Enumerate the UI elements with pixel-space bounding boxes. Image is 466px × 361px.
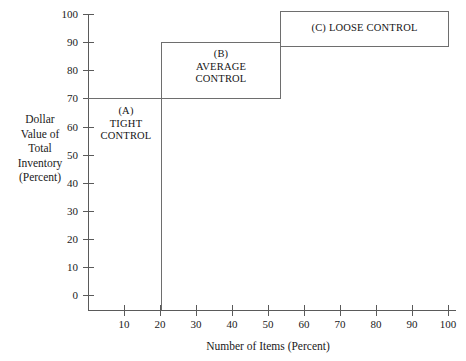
y-tick-label-20: 20	[52, 234, 78, 245]
x-tick-label-90: 90	[397, 319, 427, 330]
x-tick-label-80: 80	[361, 319, 391, 330]
y-tick-label-10: 10	[52, 262, 78, 273]
y-axis-line	[88, 14, 89, 310]
chart-container: 100 90 80 70 60 50 40 30 20 10 0 10 20 3…	[0, 0, 466, 361]
y-axis-title-line4: Inventory	[2, 156, 78, 171]
x-tick-90	[412, 305, 413, 316]
y-tick-40	[83, 183, 94, 184]
x-axis-line	[88, 310, 456, 311]
region-a-label-line3: CONTROL	[92, 130, 160, 143]
y-tick-50	[83, 155, 94, 156]
y-axis-title-line5: (Percent)	[2, 170, 78, 185]
x-tick-10	[124, 305, 125, 316]
x-tick-label-100: 100	[433, 319, 463, 330]
y-tick-label-70: 70	[52, 93, 78, 104]
y-tick-10	[83, 267, 94, 268]
x-tick-50	[268, 305, 269, 316]
y-tick-label-100: 100	[52, 9, 78, 20]
y-tick-label-0: 0	[52, 290, 78, 301]
region-a-label-line2: TIGHT	[92, 118, 160, 131]
y-tick-30	[83, 211, 94, 212]
y-axis-title: Dollar Value of Total Inventory (Percent…	[2, 112, 78, 185]
region-c-label: (C) LOOSE CONTROL	[284, 22, 445, 35]
x-tick-label-60: 60	[289, 319, 319, 330]
x-tick-100	[448, 305, 449, 316]
y-tick-90	[83, 42, 94, 43]
y-tick-label-30: 30	[52, 206, 78, 217]
y-axis-title-line2: Value of	[2, 127, 78, 142]
x-tick-label-10: 10	[109, 319, 139, 330]
y-tick-20	[83, 239, 94, 240]
x-tick-label-50: 50	[253, 319, 283, 330]
y-tick-label-90: 90	[52, 37, 78, 48]
y-axis-title-line3: Total	[2, 141, 78, 156]
x-tick-label-30: 30	[181, 319, 211, 330]
x-tick-70	[340, 305, 341, 316]
y-tick-0	[83, 295, 94, 296]
region-b-label-line1: (B)	[167, 48, 275, 61]
x-tick-80	[376, 305, 377, 316]
x-axis-title: Number of Items (Percent)	[148, 340, 388, 352]
x-tick-30	[196, 305, 197, 316]
x-tick-label-20: 20	[145, 319, 175, 330]
x-tick-60	[304, 305, 305, 316]
y-tick-100	[83, 14, 94, 15]
x-tick-label-70: 70	[325, 319, 355, 330]
x-tick-40	[232, 305, 233, 316]
region-b-label-line3: CONTROL	[167, 73, 275, 86]
region-a-label-line1: (A)	[92, 105, 160, 118]
region-b-label-line2: AVERAGE	[167, 61, 275, 74]
region-b-label: (B) AVERAGE CONTROL	[167, 48, 275, 86]
y-tick-label-80: 80	[52, 65, 78, 76]
y-axis-title-line1: Dollar	[2, 112, 78, 127]
region-c-label-line1: (C) LOOSE CONTROL	[284, 22, 445, 35]
x-tick-label-40: 40	[217, 319, 247, 330]
region-a-label: (A) TIGHT CONTROL	[92, 105, 160, 143]
y-tick-80	[83, 70, 94, 71]
